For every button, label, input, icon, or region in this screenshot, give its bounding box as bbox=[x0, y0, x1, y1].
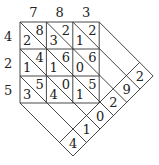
cell-tens-digit: 3 bbox=[23, 87, 31, 102]
lattice-diagram: 783425283212141606354015410292 bbox=[0, 0, 159, 165]
cell-ones-digit: 6 bbox=[88, 50, 96, 65]
top-digit: 8 bbox=[56, 5, 64, 20]
band-outer-edge bbox=[73, 76, 153, 156]
cell-ones-digit: 5 bbox=[88, 77, 96, 92]
cell-tens-digit: 3 bbox=[49, 33, 57, 48]
result-digit: 0 bbox=[96, 109, 104, 124]
cell-ones-digit: 6 bbox=[62, 50, 70, 65]
cell-tens-digit: 1 bbox=[49, 60, 57, 75]
lattice-diagonal bbox=[20, 103, 73, 156]
lattice-diagonal bbox=[46, 22, 126, 102]
result-digit: 2 bbox=[136, 69, 144, 84]
cell-tens-digit: 1 bbox=[23, 60, 31, 75]
cell-ones-digit: 0 bbox=[62, 77, 70, 92]
left-digit: 5 bbox=[4, 83, 12, 98]
left-digit: 4 bbox=[4, 29, 12, 44]
lattice-diagonal bbox=[99, 22, 153, 76]
lattice-diagonal bbox=[20, 76, 87, 143]
cell-ones-digit: 2 bbox=[88, 23, 96, 38]
cell-ones-digit: 2 bbox=[62, 23, 70, 38]
cell-ones-digit: 5 bbox=[35, 77, 43, 92]
cell-tens-digit: 1 bbox=[76, 33, 84, 48]
cell-ones-digit: 4 bbox=[35, 50, 43, 65]
left-digit: 2 bbox=[4, 56, 12, 71]
cell-tens-digit: 0 bbox=[76, 60, 84, 75]
result-digit: 1 bbox=[83, 122, 91, 137]
result-digit: 9 bbox=[123, 82, 131, 97]
cell-tens-digit: 2 bbox=[23, 33, 31, 48]
result-digit: 4 bbox=[69, 136, 77, 151]
cell-ones-digit: 8 bbox=[35, 23, 43, 38]
cell-tens-digit: 4 bbox=[49, 87, 57, 102]
top-digit: 7 bbox=[29, 5, 37, 20]
result-digit: 2 bbox=[109, 95, 117, 110]
top-digit: 3 bbox=[82, 5, 90, 20]
cell-tens-digit: 1 bbox=[76, 87, 84, 102]
